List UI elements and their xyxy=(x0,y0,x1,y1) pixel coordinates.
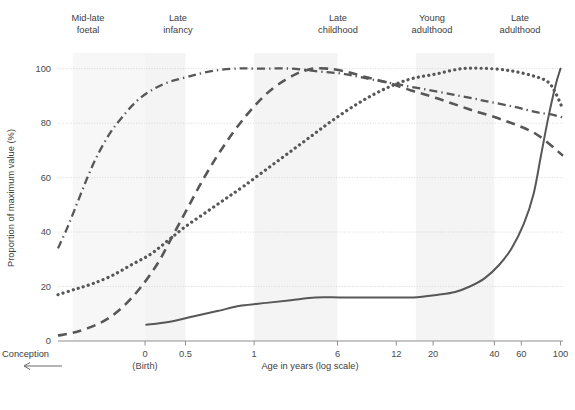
stage-label-line2: infancy xyxy=(163,25,193,35)
stage-label-line1: Young xyxy=(419,13,445,23)
brain-development-line-chart: Mid-latefoetalLateinfancyLatechildhoodYo… xyxy=(0,0,575,410)
conception-label: Conception xyxy=(2,349,49,359)
stage-label-line2: adulthood xyxy=(412,25,453,35)
birth-annotation: (Birth) xyxy=(132,361,157,371)
stage-labels: Mid-latefoetalLateinfancyLatechildhoodYo… xyxy=(71,13,540,35)
stage-label-line2: childhood xyxy=(318,25,358,35)
x-tick-label: 6 xyxy=(335,349,340,359)
y-tick-label: 60 xyxy=(41,173,51,183)
stage-label-line1: Mid-late xyxy=(71,13,104,23)
y-axis-title: Proportion of maximum value (%) xyxy=(6,129,16,267)
x-tick-label: 100 xyxy=(553,349,569,359)
y-tick-label: 0 xyxy=(46,336,51,346)
chart-container: Mid-latefoetalLateinfancyLatechildhoodYo… xyxy=(0,0,575,410)
x-tick-label: 0.5 xyxy=(179,349,192,359)
x-tick-label: 20 xyxy=(428,349,438,359)
stage-label-line1: Late xyxy=(169,13,187,23)
x-tick-label: 1 xyxy=(252,349,257,359)
stage-label-line2: adulthood xyxy=(500,25,541,35)
stage-band-foetal xyxy=(73,53,145,341)
stage-label-line2: foetal xyxy=(77,25,100,35)
y-tick-label: 100 xyxy=(35,64,51,74)
series-line-solid xyxy=(146,69,560,325)
x-tick-label: 40 xyxy=(489,349,499,359)
x-tick-label: 60 xyxy=(516,349,526,359)
x-axis-title: Age in years (log scale) xyxy=(261,361,358,371)
stage-band xyxy=(145,53,185,341)
y-tick-label: 40 xyxy=(41,227,51,237)
x-tick-label: 12 xyxy=(391,349,401,359)
stage-label-line1: Late xyxy=(329,13,347,23)
x-tick-label: 0 xyxy=(142,349,147,359)
stage-band-shading xyxy=(73,53,495,341)
stage-label-line1: Late xyxy=(511,13,529,23)
y-tick-label: 20 xyxy=(41,282,51,292)
y-tick-label: 80 xyxy=(41,118,51,128)
y-axis-ticks: 020406080100 xyxy=(35,64,51,346)
